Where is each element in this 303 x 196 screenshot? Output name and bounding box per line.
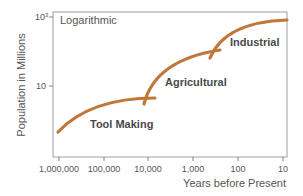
population-chart: Logarithmic 103 10 1,000,000 100,000 10,…: [0, 0, 303, 196]
x-axis-ticks: [59, 157, 283, 161]
label-industrial: Industrial: [230, 36, 280, 48]
scale-label: Logarithmic: [60, 14, 117, 26]
x-tick-label: 100: [230, 164, 245, 174]
y-tick-label-10: 10: [36, 81, 46, 91]
x-tick-label: 1,000: [182, 164, 205, 174]
label-agricultural: Agricultural: [165, 76, 227, 88]
x-tick-label: 10,000: [134, 164, 162, 174]
x-tick-label: 10: [278, 164, 288, 174]
label-tool-making: Tool Making: [90, 118, 153, 130]
y-axis-label: Population in Millions: [15, 33, 27, 137]
y-tick-label-1000: 103: [35, 12, 49, 22]
x-tick-label: 100,000: [88, 164, 121, 174]
x-tick-label: 1,000,000: [39, 164, 79, 174]
x-axis-label: Years before Present: [183, 177, 286, 189]
